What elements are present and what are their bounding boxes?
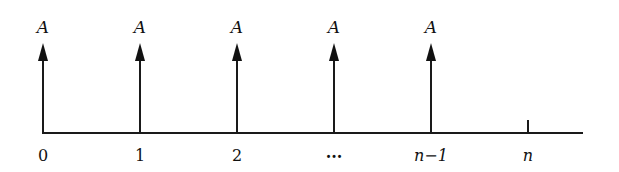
cash-flow-diagram: A0A1A2A...An−1n: [0, 0, 619, 172]
cash-flow-amount-label: A: [326, 17, 340, 37]
arrow-up-icon: [329, 43, 339, 61]
arrow-up-icon: [38, 43, 48, 61]
period-label: ...: [326, 143, 343, 162]
cash-flow-amount-label: A: [229, 17, 243, 37]
period-label: n−1: [414, 146, 448, 165]
period-label: 1: [135, 146, 145, 165]
cash-flow-period: A2: [229, 17, 243, 165]
arrow-up-icon: [135, 43, 145, 61]
cash-flow-amount-label: A: [423, 17, 437, 37]
period-label: 0: [38, 146, 48, 165]
cash-flow-period: n: [523, 120, 533, 165]
period-label: n: [523, 146, 533, 165]
arrow-up-icon: [232, 43, 242, 61]
cash-flow-period: A0: [35, 17, 49, 165]
cash-flow-amount-label: A: [132, 17, 146, 37]
cash-flow-period: A1: [132, 17, 146, 165]
arrow-up-icon: [426, 43, 436, 61]
cash-flow-period: A...: [326, 17, 343, 162]
period-label: 2: [232, 146, 242, 165]
cash-flow-period: An−1: [414, 17, 448, 165]
cash-flow-amount-label: A: [35, 17, 49, 37]
